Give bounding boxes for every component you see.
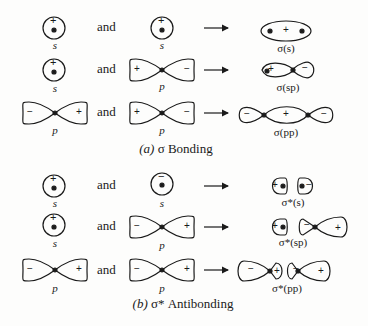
sign-minus: − <box>302 62 308 73</box>
orbital-label: p <box>159 239 165 251</box>
result-label: σ*(pp) <box>272 282 302 294</box>
caption-sigma-bonding: (a) σ Bonding <box>139 141 212 157</box>
sign-minus: − <box>293 263 299 274</box>
orbital-label: p <box>159 124 165 136</box>
nucleus-dot-icon <box>268 29 272 33</box>
and-connector: and <box>97 104 116 120</box>
sign-plus: + <box>50 56 56 68</box>
orbital-label: p <box>52 124 58 136</box>
sign-minus: − <box>27 263 33 274</box>
result-label: σ*(s) <box>281 196 304 208</box>
sign-plus: + <box>158 14 164 26</box>
and-connector: and <box>97 218 116 234</box>
sign-minus: − <box>244 108 250 119</box>
orbital-label: s <box>53 197 57 209</box>
sign-plus: + <box>268 63 274 74</box>
orbital-label: s <box>160 197 164 209</box>
sign-minus: − <box>304 219 310 230</box>
orbital-label: s <box>53 39 57 51</box>
sign-plus: + <box>184 220 190 231</box>
nucleus-dot-icon <box>300 29 304 33</box>
orbital-label: p <box>159 80 165 92</box>
sign-plus: + <box>76 263 82 274</box>
orbital-label: s <box>53 82 57 94</box>
orbital-label: p <box>159 282 165 294</box>
result-label: σ(sp) <box>276 81 299 93</box>
caption-prefix: (b) <box>133 296 148 311</box>
orbital-label: s <box>160 39 164 51</box>
sign-plus: + <box>318 265 324 276</box>
sign-minus: − <box>27 106 33 117</box>
caption-sigma-antibonding: (b) σ* Antibonding <box>133 296 234 312</box>
sign-minus: − <box>306 179 312 190</box>
sign-plus: + <box>50 14 56 26</box>
sign-plus: + <box>272 179 278 190</box>
sign-plus: + <box>134 106 140 117</box>
orbital-label: s <box>53 237 57 249</box>
sign-plus: + <box>335 222 341 233</box>
sign-minus: − <box>158 170 164 182</box>
sign-minus: − <box>321 108 327 119</box>
and-connector: and <box>97 19 116 35</box>
sign-minus: − <box>134 263 140 274</box>
and-connector: and <box>97 61 116 77</box>
sign-plus: + <box>272 220 278 231</box>
sign-plus: + <box>283 24 289 35</box>
orbital-label: p <box>52 282 58 294</box>
orbital-diagram: + + + + − + + − − + + − − + − + − + + + … <box>0 0 368 326</box>
sign-plus: + <box>283 108 289 119</box>
result-label: σ(s) <box>277 42 295 54</box>
sign-plus: + <box>134 63 140 74</box>
sign-minus: − <box>134 220 140 231</box>
sign-plus: + <box>76 106 82 117</box>
caption-text: σ* Antibonding <box>151 296 233 311</box>
sign-plus: + <box>274 265 280 276</box>
sign-plus: + <box>50 172 56 184</box>
caption-text: σ Bonding <box>158 141 213 156</box>
sign-minus: − <box>248 263 254 274</box>
sign-plus: + <box>50 211 56 223</box>
and-connector: and <box>97 177 116 193</box>
sign-minus: − <box>184 106 190 117</box>
sign-minus: − <box>184 63 190 74</box>
caption-prefix: (a) <box>139 141 154 156</box>
result-label: σ*(sp) <box>279 236 308 248</box>
sign-plus: + <box>184 263 190 274</box>
and-connector: and <box>97 262 116 278</box>
result-label: σ(pp) <box>274 126 298 138</box>
